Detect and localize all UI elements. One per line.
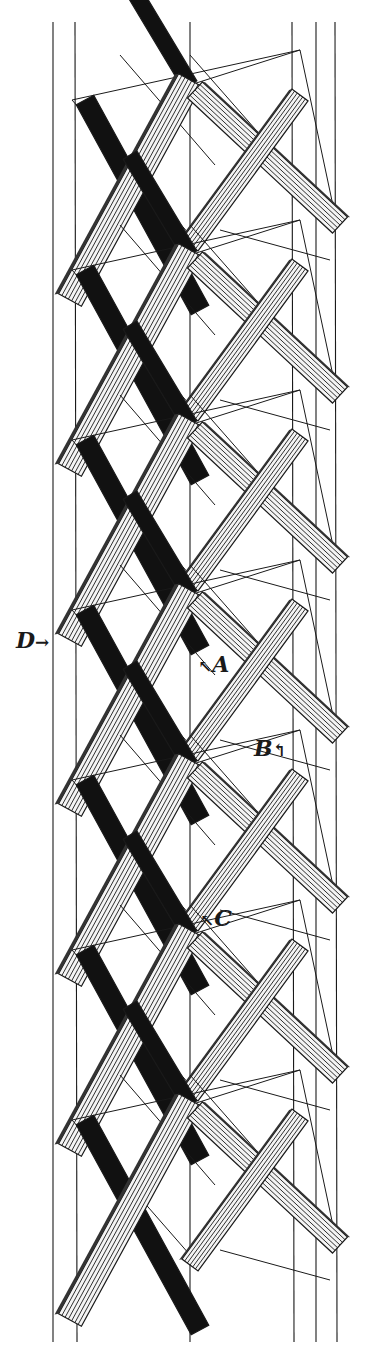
tension-cable [220, 1250, 330, 1280]
tension-cable [220, 570, 330, 600]
arrow-right-icon: → [35, 632, 49, 652]
tension-cable [220, 230, 330, 260]
curved-arrow-icon: ↰ [273, 740, 287, 760]
label-b: B↰ [254, 737, 287, 759]
label-d-text: D [16, 627, 35, 653]
tensegrity-column-diagram [0, 0, 376, 1361]
label-b-text: B [254, 735, 273, 761]
arrow-up-left-icon: ↖ [198, 656, 212, 676]
label-a-text: A [212, 651, 229, 677]
label-c-text: C [214, 905, 232, 931]
shadow-strut [123, 0, 197, 89]
tension-cable [220, 1080, 330, 1110]
tension-cable [220, 400, 330, 430]
tension-cable [220, 910, 330, 940]
tension-cable [190, 50, 300, 85]
label-c: ↖C [200, 907, 232, 929]
label-a: ↖A [198, 653, 229, 675]
label-d: D→ [16, 629, 49, 651]
curved-arrow-up-left-icon: ↖ [200, 910, 214, 930]
